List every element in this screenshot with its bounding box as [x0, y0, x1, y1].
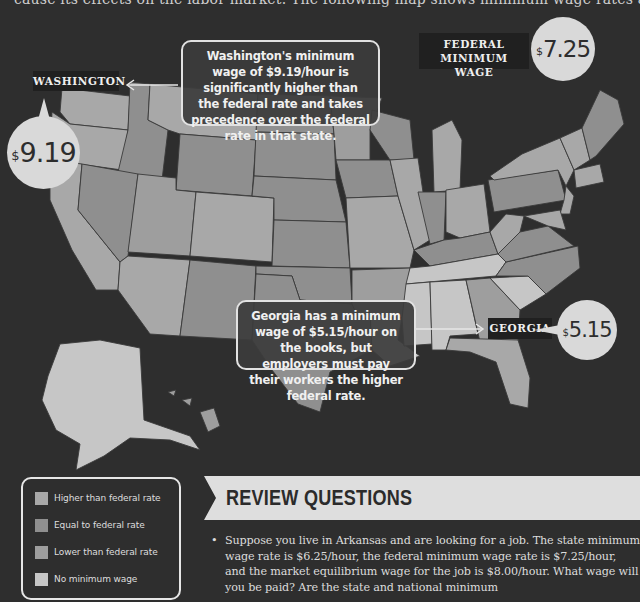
wage-amount: 5.15 [569, 318, 612, 342]
currency-symbol: $ [536, 45, 542, 58]
state-florida [446, 338, 530, 408]
legend-label: Lower than federal rate [54, 547, 158, 557]
legend-item-none: No minimum wage [35, 571, 137, 587]
map-legend: Higher than federal rate Equal to federa… [21, 477, 181, 600]
state-colorado [190, 192, 274, 262]
state-hawaii [168, 390, 220, 432]
currency-symbol: $ [562, 327, 567, 338]
federal-wage-bubble: $7.25 [531, 17, 595, 81]
legend-item-equal: Equal to federal rate [35, 517, 145, 533]
bullet-icon: • [211, 533, 217, 549]
georgia-wage-bubble: $5.15 [557, 300, 617, 360]
review-questions-banner: REVIEW QUESTIONS [204, 476, 640, 520]
washington-callout: Washington's minimum wage of $9.19/hour … [181, 40, 380, 126]
review-question-1: • Suppose you live in Arkansas and are l… [210, 533, 640, 595]
washington-label: WASHINGTON [33, 71, 119, 91]
review-questions-title: REVIEW QUESTIONS [226, 476, 412, 520]
currency-symbol: $ [11, 148, 18, 163]
wage-amount: 7.25 [543, 36, 590, 62]
legend-label: Higher than federal rate [54, 493, 161, 503]
state-iowa [336, 160, 398, 198]
state-kansas [272, 220, 350, 268]
legend-swatch [35, 519, 48, 532]
legend-item-lower: Lower than federal rate [35, 544, 158, 560]
question-text: Suppose you live in Arkansas and are loo… [210, 533, 640, 595]
state-arizona [118, 256, 190, 336]
federal-label-line1: FEDERAL [419, 37, 529, 51]
legend-label: Equal to federal rate [54, 520, 145, 530]
federal-minimum-wage-label: FEDERAL MINIMUM WAGE [419, 33, 529, 69]
state-maine [582, 90, 624, 160]
legend-item-higher: Higher than federal rate [35, 490, 161, 506]
legend-swatch [35, 573, 48, 586]
washington-wage-bubble: $9.19 [7, 116, 80, 189]
state-alaska [42, 340, 200, 470]
legend-swatch [35, 492, 48, 505]
state-michigan [432, 120, 462, 192]
wage-amount: 9.19 [20, 137, 76, 168]
legend-swatch [35, 546, 48, 559]
legend-label: No minimum wage [54, 574, 137, 584]
state-ohio [446, 184, 490, 238]
georgia-callout: Georgia has a minimum wage of $5.15/hour… [236, 300, 416, 370]
federal-label-line2: MINIMUM WAGE [419, 51, 529, 79]
